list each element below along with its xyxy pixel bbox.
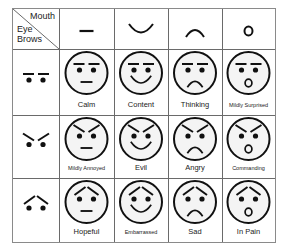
emotion-label: Mildly Annoyed	[59, 165, 114, 171]
emotion-cell-calm: Calm	[59, 49, 114, 115]
emotion-cell-thinking: Thinking	[168, 49, 222, 115]
emotion-label: Calm	[59, 100, 114, 109]
flat-eyebrows-icon	[13, 49, 59, 115]
emotion-label: Angry	[168, 163, 222, 172]
emotion-label: Mildly Surprised	[222, 102, 275, 108]
emotion-grid: Mouth Eye Brows Calm Content Thinking Mi…	[12, 8, 276, 243]
emotion-label: Thinking	[168, 100, 222, 109]
eyebrows-axis-label: Eye Brows	[17, 24, 42, 44]
frown-mouth-icon	[168, 9, 222, 49]
smile-mouth-icon	[114, 9, 168, 49]
emotion-cell-mildly-annoyed: Mildly Annoyed	[59, 115, 114, 178]
eyebrows-header-worried	[13, 178, 59, 242]
emotion-label: Hopeful	[59, 227, 114, 236]
open-mouth-icon	[222, 9, 275, 49]
emotion-label: Content	[114, 100, 168, 109]
emotion-label: Sad	[168, 227, 222, 236]
eyebrows-header-flat	[13, 49, 59, 115]
eyebrows-header-angry	[13, 115, 59, 178]
emotion-cell-commanding: Commanding	[222, 115, 275, 178]
mouth-header-flat	[59, 9, 114, 49]
angry-eyebrows-icon	[13, 115, 59, 178]
corner-header-cell: Mouth Eye Brows	[13, 9, 59, 49]
emotion-cell-in-pain: In Pain	[222, 178, 275, 242]
flat-mouth-icon	[59, 9, 114, 49]
emotion-cell-sad: Sad	[168, 178, 222, 242]
mouth-header-o	[222, 9, 275, 49]
emotion-label: In Pain	[222, 227, 275, 236]
emotion-cell-embarrassed: Embarrassed	[114, 178, 168, 242]
mouth-axis-label: Mouth	[30, 11, 55, 21]
emotion-cell-angry: Angry	[168, 115, 222, 178]
emotion-cell-evil: Evil	[114, 115, 168, 178]
emotion-cell-mildly-surprised: Mildly Surprised	[222, 49, 275, 115]
mouth-header-smile	[114, 9, 168, 49]
emotion-cell-hopeful: Hopeful	[59, 178, 114, 242]
emotion-label: Commanding	[222, 165, 275, 171]
emotion-label: Evil	[114, 163, 168, 172]
worried-eyebrows-icon	[13, 178, 59, 242]
emotion-cell-content: Content	[114, 49, 168, 115]
mouth-header-frown	[168, 9, 222, 49]
emotion-label: Embarrassed	[114, 229, 168, 235]
